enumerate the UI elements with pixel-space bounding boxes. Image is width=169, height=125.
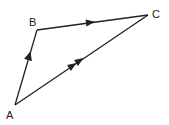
edge-ab — [15, 30, 37, 105]
arrowhead-ab-icon — [24, 50, 34, 61]
vertex-label-b: B — [29, 16, 36, 28]
vertex-label-a: A — [6, 109, 14, 121]
vertex-label-c: C — [152, 8, 160, 20]
vector-triangle-diagram: A B C — [0, 0, 169, 125]
